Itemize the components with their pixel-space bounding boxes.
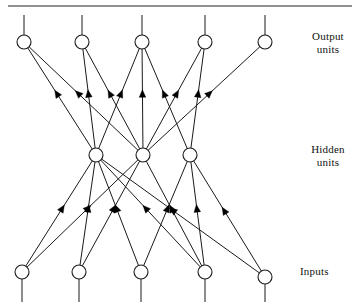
layer-label-output: Output units [300,30,356,56]
node-o2 [75,35,89,49]
node-o5 [258,35,272,49]
layer-label-inputs: Inputs [300,265,356,278]
node-o4 [198,35,212,49]
node-h3 [183,148,197,162]
node-i1 [15,265,29,279]
node-i2 [72,265,86,279]
node-i4 [198,265,212,279]
node-o3 [135,35,149,49]
layer-label-hidden: Hidden units [300,143,356,169]
node-i5 [258,270,272,284]
node-i3 [134,265,148,279]
node-h2 [136,148,150,162]
node-o1 [17,35,31,49]
node-h1 [89,148,103,162]
